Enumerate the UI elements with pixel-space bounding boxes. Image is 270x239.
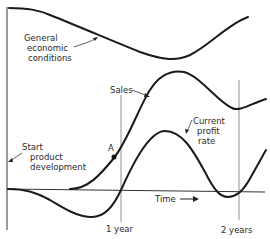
general-economic-label: General economic conditions — [24, 33, 72, 63]
profit-label: Current profit rate — [193, 116, 226, 146]
svg-text:Current: Current — [193, 116, 226, 126]
start-product-arrowhead — [8, 158, 13, 162]
svg-text:product: product — [30, 152, 63, 162]
profit-arrowhead — [185, 129, 189, 134]
general-economic-leader — [74, 38, 97, 47]
svg-text:conditions: conditions — [28, 53, 72, 63]
start-product-label: Start product development — [22, 142, 87, 172]
time-axis — [7, 189, 265, 192]
svg-text:economic: economic — [27, 43, 68, 53]
profit-leader — [187, 120, 192, 131]
profit-curve — [8, 131, 266, 217]
svg-text:General: General — [24, 33, 58, 43]
two-years-label: 2 years — [221, 225, 253, 235]
general-economic-arrowhead — [93, 37, 98, 41]
svg-text:profit: profit — [197, 126, 220, 136]
point-a-marker — [112, 155, 117, 160]
business-cycle-diagram: A General economic conditions Sales Curr… — [0, 0, 270, 239]
one-year-label: 1 year — [106, 224, 134, 234]
svg-text:development: development — [30, 162, 87, 172]
sales-label: Sales — [110, 85, 133, 95]
svg-text:rate: rate — [198, 136, 215, 146]
time-arrow-icon — [193, 196, 199, 202]
svg-text:Start: Start — [22, 142, 43, 152]
time-label: Time — [154, 194, 176, 204]
point-a-label: A — [108, 143, 114, 153]
